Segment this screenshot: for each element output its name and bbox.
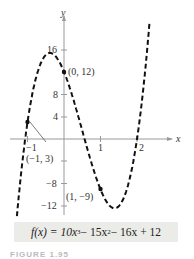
y-tick-neg12: −12 <box>41 200 57 211</box>
formula-part-2: − 15x <box>81 226 108 238</box>
point-label-1-neg9: (1, −9) <box>66 191 93 203</box>
x-axis-label: x <box>175 133 181 144</box>
point-0-12 <box>62 70 66 74</box>
y-axis <box>62 15 66 215</box>
formula-part-3: − 16x + 12 <box>111 226 161 238</box>
y-axis-label: y <box>60 7 66 18</box>
x-axis <box>10 137 173 141</box>
point-label-0-12: (0, 12) <box>68 66 95 78</box>
function-graph: y x 16 8 4 −8 −12 −1 1 2 (0, 12) (−1, 3)… <box>0 0 194 222</box>
point-1-neg9 <box>98 187 102 191</box>
x-tick-neg1: −1 <box>26 142 37 153</box>
y-tick-8: 8 <box>53 89 58 100</box>
function-formula: f(x) = 10x3 − 15x2 − 16x + 12 <box>14 222 178 242</box>
point-neg1-3 <box>25 120 29 124</box>
x-tick-2: 2 <box>139 142 144 153</box>
formula-part-1: f(x) = 10x <box>31 226 77 238</box>
x-tick-1: 1 <box>98 142 103 153</box>
point-label-neg1-3: (−1, 3) <box>26 153 53 165</box>
figure-caption: FIGURE 1.95 <box>10 250 69 259</box>
function-curve <box>17 24 150 216</box>
y-tick-4: 4 <box>53 111 58 122</box>
y-tick-neg8: −8 <box>46 178 57 189</box>
